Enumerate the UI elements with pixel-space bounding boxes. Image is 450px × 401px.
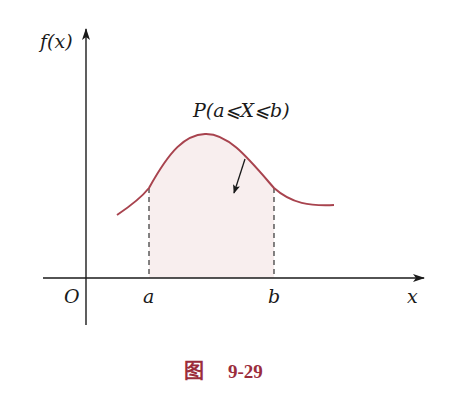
shaded-probability-region [149, 134, 274, 278]
probability-label: P(a⩽X⩽b) [192, 99, 290, 121]
figure-caption-prefix: 图 [184, 360, 204, 382]
interval-start-label: a [143, 285, 154, 307]
y-axis-label: f(x) [38, 30, 73, 52]
density-figure: f(x) O a b x P(a⩽X⩽b) 图 9-29 [0, 0, 450, 401]
figure-caption-number: 9-29 [228, 361, 263, 382]
x-axis-label: x [407, 285, 418, 307]
origin-label: O [64, 285, 80, 307]
interval-end-label: b [268, 285, 280, 307]
